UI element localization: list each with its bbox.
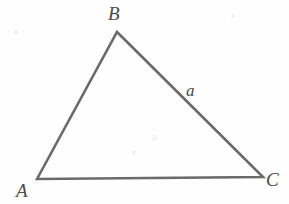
- triangle-shape: [0, 0, 289, 204]
- side-label-a: a: [186, 82, 195, 99]
- triangle-polygon: [37, 32, 263, 179]
- figure-canvas: B a A C: [0, 0, 289, 204]
- vertex-label-c: C: [266, 170, 279, 189]
- vertex-label-a: A: [16, 181, 28, 200]
- vertex-label-b: B: [108, 4, 120, 23]
